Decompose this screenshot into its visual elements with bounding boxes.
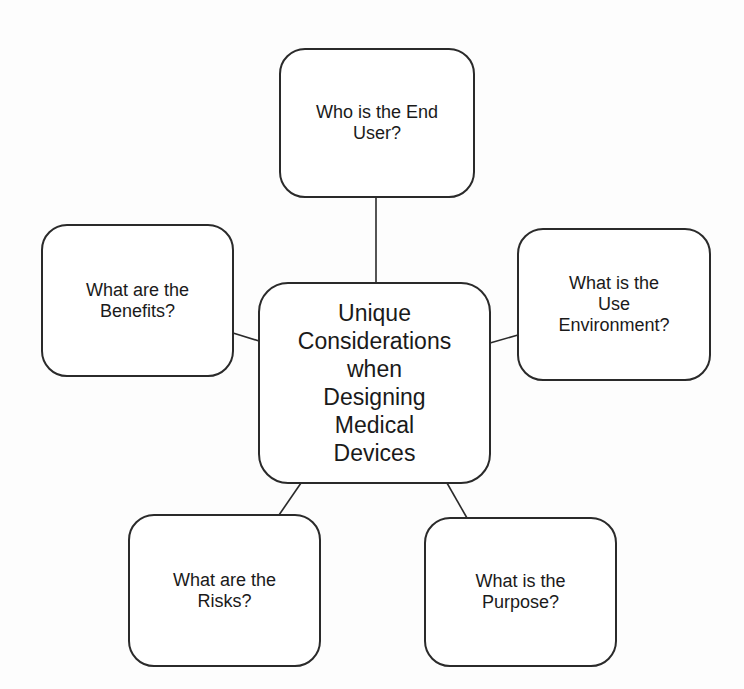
node-end-user: Who is the End User? xyxy=(279,48,475,198)
node-risks-label: What are the Risks? xyxy=(173,570,276,612)
connector-bottom-right xyxy=(447,483,467,518)
mind-map-canvas: Who is the End User? What are the Benefi… xyxy=(0,0,744,689)
central-topic-node: Unique Considerations when Designing Med… xyxy=(258,282,491,484)
connector-left xyxy=(233,333,259,341)
node-end-user-label: Who is the End User? xyxy=(316,102,438,144)
node-benefits: What are the Benefits? xyxy=(41,224,234,377)
node-use-environment: What is the Use Environment? xyxy=(517,228,711,381)
node-benefits-label: What are the Benefits? xyxy=(86,280,189,322)
node-risks: What are the Risks? xyxy=(128,514,321,667)
connector-right xyxy=(490,335,518,343)
node-purpose-label: What is the Purpose? xyxy=(475,571,565,613)
node-purpose: What is the Purpose? xyxy=(424,517,617,667)
central-topic-label: Unique Considerations when Designing Med… xyxy=(298,299,451,467)
connector-bottom-left xyxy=(279,483,301,515)
node-use-environment-label: What is the Use Environment? xyxy=(558,273,669,336)
